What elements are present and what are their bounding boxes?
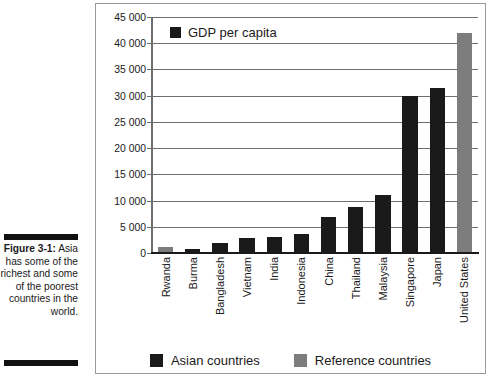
series-swatch-icon <box>170 27 181 38</box>
x-axis-label-slot: Malaysia <box>369 255 396 350</box>
x-axis-label-slot: Japan <box>424 255 451 350</box>
bar-singapore[interactable] <box>402 96 417 253</box>
bar-malaysia[interactable] <box>375 195 390 253</box>
y-axis-tick-label: 35 000 <box>114 64 146 75</box>
bar-slot <box>424 17 451 253</box>
y-axis-tick-label: 30 000 <box>114 90 146 101</box>
bar-slot <box>342 17 369 253</box>
y-axis-tick-labels: 45 00040 00035 00030 00025 00020 00015 0… <box>96 17 146 253</box>
y-axis-tick-label: 20 000 <box>114 143 146 154</box>
bar-slot <box>397 17 424 253</box>
x-axis-tick-label: Indonesia <box>295 257 307 305</box>
y-axis-tick-label: 45 000 <box>114 12 146 23</box>
bar-slot <box>451 17 478 253</box>
x-axis-tick-labels: RwandaBurmaBangladeshVietnamIndiaIndones… <box>152 255 478 350</box>
bar-slot <box>288 17 315 253</box>
bar-slot <box>234 17 261 253</box>
plot-area: GDP per capita <box>152 17 478 253</box>
x-axis-tick-label: Rwanda <box>160 257 172 297</box>
figure-label: Figure 3-1: <box>4 243 56 254</box>
bar-japan[interactable] <box>430 88 445 253</box>
figure-caption: Asia has some of the richest and some of… <box>0 243 78 317</box>
x-axis-label-slot: Thailand <box>342 255 369 350</box>
y-axis-tick-label: 0 <box>140 248 146 259</box>
x-axis-tick-label: Bangladesh <box>214 257 226 315</box>
legend-item-asian: Asian countries <box>150 353 260 368</box>
x-axis-label-slot: Rwanda <box>152 255 179 350</box>
y-axis-tick-label: 10 000 <box>114 195 146 206</box>
x-axis-tick-label: Japan <box>431 257 443 287</box>
y-axis-tick-label: 40 000 <box>114 38 146 49</box>
bar-china[interactable] <box>321 217 336 253</box>
y-axis-tick-label: 25 000 <box>114 116 146 127</box>
chart-title: GDP per capita <box>188 25 277 40</box>
legend-item-reference: Reference countries <box>294 353 431 368</box>
caption-rule-top <box>4 234 78 240</box>
caption-rule-bottom <box>4 360 78 366</box>
bar-slot <box>152 17 179 253</box>
x-axis-tick-label: United States <box>458 257 470 323</box>
x-axis-line <box>151 252 479 254</box>
bar-india[interactable] <box>267 237 282 253</box>
x-axis-label-slot: Burma <box>179 255 206 350</box>
chart-legend: Asian countriesReference countries <box>96 348 485 372</box>
bar-united-states[interactable] <box>457 33 472 253</box>
legend-label: Asian countries <box>171 353 260 368</box>
x-axis-tick-label: China <box>323 257 335 286</box>
bar-indonesia[interactable] <box>294 234 309 253</box>
bar-slot <box>261 17 288 253</box>
x-axis-label-slot: China <box>315 255 342 350</box>
x-axis-tick-label: India <box>268 257 280 281</box>
legend-label: Reference countries <box>315 353 431 368</box>
x-axis-label-slot: Bangladesh <box>206 255 233 350</box>
bar-slot <box>315 17 342 253</box>
y-axis-tick-label: 15 000 <box>114 169 146 180</box>
chart-frame: 45 00040 00035 00030 00025 00020 00015 0… <box>95 3 486 374</box>
series-title-legend: GDP per capita <box>170 25 277 40</box>
figure-caption-text: Figure 3-1: Asia has some of the richest… <box>0 243 78 319</box>
x-axis-tick-label: Thailand <box>350 257 362 299</box>
x-axis-tick-label: Vietnam <box>241 257 253 297</box>
x-axis-tick-label: Burma <box>187 257 199 289</box>
x-axis-label-slot: Singapore <box>397 255 424 350</box>
bar-slot <box>179 17 206 253</box>
bar-slot <box>369 17 396 253</box>
x-axis-label-slot: Indonesia <box>288 255 315 350</box>
bar-vietnam[interactable] <box>239 238 254 253</box>
x-axis-tick-label: Malaysia <box>377 257 389 300</box>
x-axis-label-slot: Vietnam <box>234 255 261 350</box>
bar-thailand[interactable] <box>348 207 363 253</box>
legend-swatch-asian-icon <box>150 354 163 367</box>
legend-swatch-reference-icon <box>294 354 307 367</box>
bar-series <box>152 17 478 253</box>
figure-caption-block: Figure 3-1: Asia has some of the richest… <box>0 0 82 379</box>
y-axis-tick-label: 5 000 <box>120 221 146 232</box>
x-axis-label-slot: United States <box>451 255 478 350</box>
x-axis-tick-label: Singapore <box>404 257 416 307</box>
bar-slot <box>206 17 233 253</box>
x-axis-label-slot: India <box>261 255 288 350</box>
